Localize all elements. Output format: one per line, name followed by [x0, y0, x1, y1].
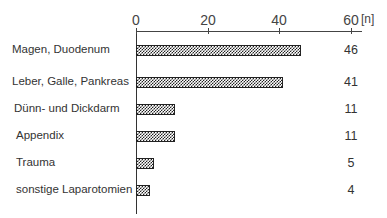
bar [136, 185, 150, 196]
x-tick-40 [279, 28, 280, 34]
bar [136, 77, 283, 88]
x-tick-label: 40 [271, 12, 287, 28]
bar [136, 158, 154, 169]
value-label: 11 [345, 129, 358, 143]
bar [136, 45, 301, 56]
value-label: 4 [348, 183, 355, 197]
value-label: 41 [344, 75, 358, 89]
bar [136, 131, 175, 142]
category-label: Appendix [16, 129, 64, 141]
bar [136, 104, 175, 115]
category-label: Leber, Galle, Pankreas [12, 75, 129, 87]
x-tick-20 [208, 28, 209, 34]
category-label: Dünn- und Dickdarm [14, 102, 119, 114]
category-label: Trauma [16, 156, 55, 168]
category-label: sonstige Laparotomien [16, 183, 132, 195]
x-tick-label: 0 [132, 12, 140, 28]
x-axis-unit: [n] [361, 12, 374, 26]
x-axis-line [136, 31, 362, 32]
value-label: 5 [348, 156, 355, 170]
x-tick-label: 20 [200, 12, 216, 28]
value-label: 46 [344, 43, 358, 57]
x-tick-label: 60 [343, 12, 359, 28]
value-label: 11 [345, 102, 358, 116]
category-label: Magen, Duodenum [12, 43, 110, 55]
x-tick-60 [351, 28, 352, 34]
horizontal-bar-chart: 0 20 40 60 [n] Magen, Duodenum46Leber, G… [0, 0, 387, 218]
x-tick-0 [136, 28, 137, 34]
